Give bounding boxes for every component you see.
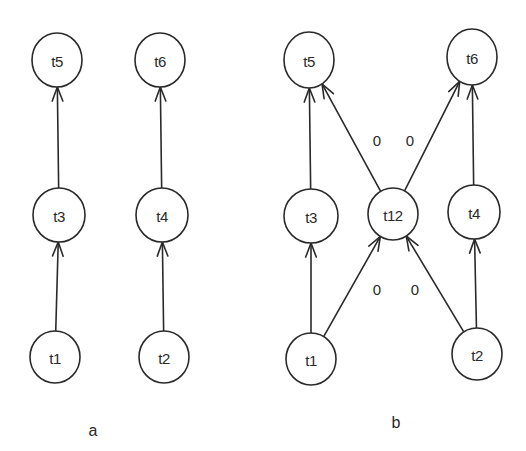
diagram-b-nodes: t5t6t3t12t4t1t2 xyxy=(284,29,502,385)
arrowhead-icon xyxy=(369,236,381,251)
diagram-a-caption: a xyxy=(89,422,98,439)
edge-weight-label: 0 xyxy=(373,281,381,298)
edge-t1-to-t3 xyxy=(53,242,64,331)
node-t2: t2 xyxy=(452,328,502,380)
edge-line xyxy=(162,242,163,331)
node-label: t4 xyxy=(156,208,168,225)
edge-line xyxy=(56,242,59,331)
edge-t3-to-t5 xyxy=(52,87,63,188)
node-label: t1 xyxy=(49,350,61,367)
node-label: t3 xyxy=(305,209,317,226)
edge-t4-to-t6 xyxy=(467,85,478,185)
diagram-a: t5t6t3t4t1t2 a xyxy=(30,33,189,439)
edge-line xyxy=(160,87,161,188)
node-label: t3 xyxy=(53,208,65,225)
node-label: t5 xyxy=(303,53,315,70)
task-graph-canvas: t5t6t3t4t1t2 a 0000 t5t6t3t12t4t1t2 b xyxy=(0,0,526,451)
diagram-b: 0000 t5t6t3t12t4t1t2 b xyxy=(284,29,502,431)
edge-weight-label: 0 xyxy=(411,281,419,298)
node-label: t6 xyxy=(466,50,478,67)
node-t6: t6 xyxy=(447,29,497,85)
edge-line xyxy=(309,88,310,189)
node-label: t12 xyxy=(383,207,403,224)
node-t4: t4 xyxy=(448,185,500,239)
node-t4: t4 xyxy=(136,188,188,242)
edge-t3-to-t5 xyxy=(304,88,315,189)
node-t1: t1 xyxy=(30,331,80,383)
diagram-a-nodes: t5t6t3t4t1t2 xyxy=(30,33,189,383)
node-t6: t6 xyxy=(135,33,185,87)
node-label: t2 xyxy=(471,347,483,364)
edge-t1-to-t3 xyxy=(306,243,317,333)
node-label: t1 xyxy=(305,352,317,369)
node-label: t5 xyxy=(51,53,63,70)
node-t2: t2 xyxy=(139,331,189,383)
node-label: t6 xyxy=(154,53,166,70)
edge-weight-label: 0 xyxy=(373,132,381,149)
edge-t12-to-t6: 0 xyxy=(405,81,460,191)
arrowhead-icon xyxy=(322,84,333,99)
node-t3: t3 xyxy=(284,189,338,243)
edge-t2-to-t4 xyxy=(157,242,168,331)
edge-line xyxy=(324,236,381,336)
node-t12: t12 xyxy=(368,188,418,240)
arrowhead-icon xyxy=(406,236,418,251)
edge-line xyxy=(475,239,477,328)
node-label: t4 xyxy=(468,205,480,222)
node-t1: t1 xyxy=(286,333,336,385)
node-t5: t5 xyxy=(32,33,82,87)
diagram-b-caption: b xyxy=(392,414,401,431)
edge-t1-to-t12: 0 xyxy=(324,236,381,336)
edge-t2-to-t12: 0 xyxy=(406,236,464,332)
edge-t12-to-t5: 0 xyxy=(322,84,381,191)
edge-weight-label: 0 xyxy=(406,132,414,149)
edge-t2-to-t4 xyxy=(470,239,481,328)
node-t5: t5 xyxy=(284,32,334,88)
edge-line xyxy=(472,85,473,185)
edge-t4-to-t6 xyxy=(155,87,166,188)
node-t3: t3 xyxy=(33,188,85,242)
edge-line xyxy=(57,87,58,188)
node-label: t2 xyxy=(158,350,170,367)
